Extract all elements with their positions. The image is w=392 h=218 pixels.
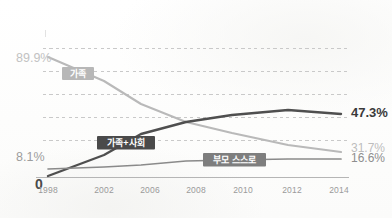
start-label-family: 89.9%: [16, 51, 51, 65]
gridlines: [43, 49, 349, 141]
x-tick-2012: 2012: [282, 185, 302, 195]
series-tag-family-label: 가족: [70, 68, 86, 79]
x-tick-2002: 2002: [94, 185, 114, 195]
x-tick-2006: 2006: [140, 185, 160, 195]
line-chart-plot: 가족 가족+사회 부모 스스로 89.9% 8.1% 0 47.3% 31.7%…: [0, 0, 392, 218]
series-tag-family-society-label: 가족+사회: [107, 137, 144, 148]
start-label-family-society: 8.1%: [16, 150, 45, 164]
chart-container: 가족 가족+사회 부모 스스로 89.9% 8.1% 0 47.3% 31.7%…: [0, 0, 392, 218]
series-tag-parents: 부모 스스로: [203, 153, 266, 167]
x-tick-2008: 2008: [186, 185, 206, 195]
x-tick-1998: 1998: [38, 185, 58, 195]
x-axis-tick-labels: 1998 2002 2006 2008 2010 2012 2014: [38, 185, 349, 195]
series-tag-family: 가족: [62, 67, 94, 80]
x-tick-2014: 2014: [329, 185, 349, 195]
series-tag-family-society: 가족+사회: [97, 136, 155, 150]
series-tag-parents-label: 부모 스스로: [213, 155, 257, 165]
x-tick-2010: 2010: [233, 185, 253, 195]
series-line-family-society: [48, 110, 341, 176]
end-label-parents: 16.6%: [351, 151, 385, 165]
end-label-family-society: 47.3%: [351, 105, 388, 120]
